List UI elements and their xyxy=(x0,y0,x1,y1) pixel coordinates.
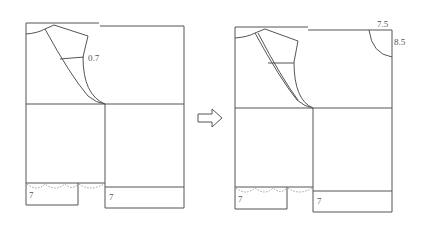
right-pattern: 7.5 8.5 7 7 xyxy=(235,19,406,212)
corner-curve xyxy=(369,30,392,57)
right-front-curve-inner xyxy=(258,33,298,100)
left-hem-label: 7 xyxy=(29,190,34,200)
left-scallop-dashes xyxy=(27,184,104,188)
right-collar-outline xyxy=(235,29,313,108)
right-hem-label: 7 xyxy=(109,192,114,202)
collar-offset-label: 0.7 xyxy=(88,53,100,63)
left-front-curve xyxy=(45,29,105,104)
right-right-hem-label: 7 xyxy=(317,196,322,206)
corner-width-label: 7.5 xyxy=(377,19,389,29)
left-offset-tick xyxy=(60,57,84,59)
right-left-hem-label: 7 xyxy=(238,194,243,204)
pattern-diagram: 0.7 7 7 7.5 8.5 7 7 xyxy=(0,0,429,225)
right-arrow-icon xyxy=(198,109,222,127)
corner-height-label: 8.5 xyxy=(394,37,406,47)
left-pattern: 0.7 7 7 xyxy=(26,23,184,208)
right-scallop-dashes xyxy=(236,188,312,192)
